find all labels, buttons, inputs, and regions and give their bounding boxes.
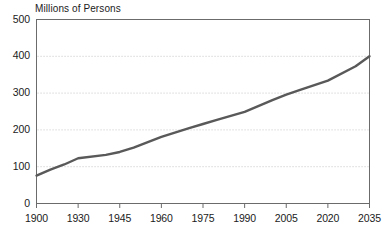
y-tick-label: 400 <box>2 49 30 61</box>
data-series-population <box>37 56 370 175</box>
axis-lines <box>37 20 370 204</box>
x-tick-label: 1990 <box>225 212 265 224</box>
x-tick-label: 1975 <box>183 212 223 224</box>
x-tick-label: 1930 <box>58 212 98 224</box>
gridlines <box>38 56 369 166</box>
y-tick-label: 200 <box>2 123 30 135</box>
x-tick-label: 2005 <box>266 212 306 224</box>
y-tick-label: 0 <box>2 197 30 209</box>
x-tick-label: 2035 <box>350 212 386 224</box>
y-tick-label: 300 <box>2 86 30 98</box>
x-tick-label: 2020 <box>308 212 348 224</box>
x-tick-label: 1900 <box>17 212 57 224</box>
x-tick-label: 1945 <box>100 212 140 224</box>
x-tick-marks <box>37 204 370 209</box>
y-tick-label: 100 <box>2 160 30 172</box>
y-tick-label: 500 <box>2 13 30 25</box>
x-tick-label: 1960 <box>141 212 181 224</box>
